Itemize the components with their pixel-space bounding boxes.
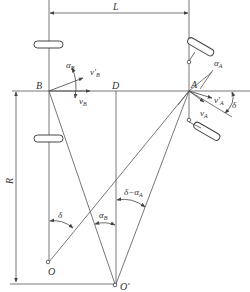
point-O bbox=[46, 260, 50, 264]
alpha-B-arc bbox=[72, 68, 76, 98]
label-v-A: vA bbox=[200, 108, 208, 119]
label-L: L bbox=[112, 1, 119, 12]
label-O: O bbox=[48, 266, 55, 277]
steering-kinematics-diagram: L B D A O O' R αB v'B vB αA v'A vA δ δ α… bbox=[0, 0, 250, 292]
rear-top-wheel bbox=[34, 41, 63, 48]
label-B: B bbox=[36, 80, 42, 91]
v-A-arrow bbox=[189, 91, 204, 102]
delta-minus-alpha-A-arc bbox=[117, 199, 145, 207]
label-v-prime-B: v'B bbox=[90, 67, 100, 78]
point-O-prime bbox=[113, 283, 117, 287]
delta-lower-arc bbox=[50, 221, 73, 228]
front-bottom-wheel bbox=[193, 121, 222, 142]
label-R: R bbox=[4, 178, 15, 185]
label-alpha-B-lower: αB bbox=[99, 210, 108, 221]
alpha-B-lower-arc bbox=[95, 223, 115, 225]
A-ray-left bbox=[178, 91, 189, 105]
label-D: D bbox=[111, 80, 120, 91]
rear-bottom-wheel bbox=[34, 135, 63, 142]
B-to-Oprime-line bbox=[49, 91, 115, 284]
alpha-A-leader bbox=[200, 70, 213, 89]
label-delta-right: δ bbox=[232, 100, 237, 110]
label-alpha-A: αA bbox=[214, 58, 223, 69]
front-bottom-pivot bbox=[187, 118, 191, 122]
label-A: A bbox=[190, 79, 198, 90]
v-prime-A-arrow bbox=[189, 91, 212, 98]
label-v-prime-A: v'A bbox=[214, 95, 224, 106]
A-wheel-direction-line bbox=[189, 91, 232, 117]
label-v-B: vB bbox=[79, 96, 87, 107]
v-prime-B-arrow bbox=[49, 78, 83, 91]
label-alpha-B: αB bbox=[66, 60, 75, 71]
A-to-O-line bbox=[49, 91, 189, 262]
front-top-pivot bbox=[187, 60, 191, 64]
front-top-wheel bbox=[186, 37, 215, 58]
label-delta-lower: δ bbox=[58, 210, 63, 220]
label-delta-minus-alpha-A: δ−αA bbox=[124, 187, 143, 198]
label-O-prime: O' bbox=[120, 281, 130, 292]
front-top-kingpin-link bbox=[189, 52, 195, 61]
